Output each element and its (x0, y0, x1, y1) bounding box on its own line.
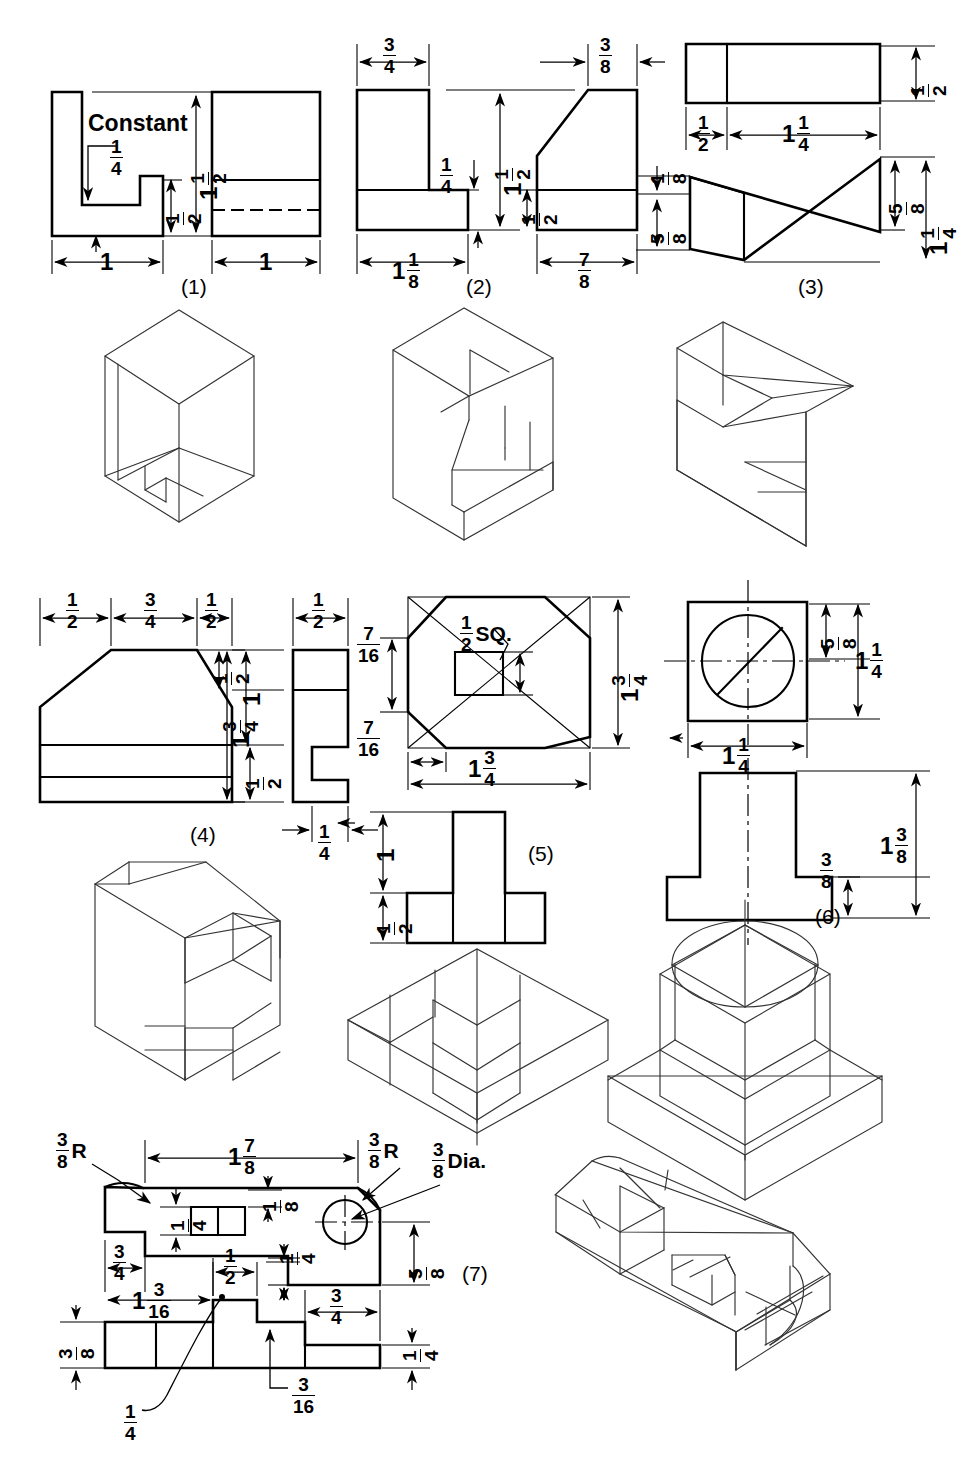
dim-4-one: 1 (240, 691, 264, 706)
dim-7-three-eighths-dia: 38 Dia. (432, 1140, 486, 1181)
caption-1: (1) (181, 275, 207, 299)
dim-6-one-and-quarter-h: 1 14 (722, 735, 750, 776)
dim-1-width-side: 1 (259, 250, 274, 274)
dim-7-quarter-thk: 14 (400, 1349, 441, 1362)
dim-3-half-height: 12 (908, 84, 949, 97)
dim-7-eighth: 18 (260, 1200, 301, 1213)
dim-7-three-quarters-a: 34 (113, 1242, 126, 1283)
dim-2-three-quarters: 34 (383, 35, 396, 76)
caption-3: (3) (798, 275, 824, 299)
caption-2: (2) (466, 275, 492, 299)
dim-6-three-eighths: 38 (820, 850, 833, 891)
dim-3-one-and-quarter-height: 1 14 (918, 227, 959, 255)
problem-4-isometric (95, 862, 280, 1080)
dim-6-five-eighths: 58 (818, 637, 859, 650)
dim-4-half-side: 12 (312, 590, 325, 631)
dim-4-half-b: 12 (205, 590, 218, 631)
dim-5-seven-sixteenths-b: 716 (357, 718, 380, 759)
dim-7-half: 12 (224, 1246, 237, 1287)
problem-6-views (664, 580, 930, 945)
caption-6: (6) (815, 905, 841, 929)
dim-7-quarter-mid: 14 (277, 1252, 318, 1265)
dim-2-three-eighths: 38 (599, 35, 612, 76)
dim-2-one-quarter: 14 (440, 155, 453, 196)
dim-7-three-eighths-r-right: 38 R (368, 1130, 399, 1171)
caption-7: (7) (462, 1262, 488, 1286)
problem-7-isometric (555, 1157, 830, 1370)
dim-1-quarter: 14 (110, 137, 123, 178)
dim-3-half-left: 12 (697, 113, 710, 154)
dim-5-half-sq: 12 SQ. (460, 613, 512, 654)
problem-1-isometric (105, 310, 254, 522)
dim-7-three-quarters-b: 34 (330, 1286, 343, 1327)
dim-2-one-and-eighth: 1 18 (392, 250, 420, 291)
dim-4-three-quarters: 34 (144, 590, 157, 631)
problem-2-views (357, 44, 665, 274)
dim-5-one-three-quarters-h: 1 34 (468, 748, 496, 789)
dim-7-quarter-leader: 14 (124, 1402, 137, 1443)
caption-4: (4) (190, 823, 216, 847)
dim-5-one: 1 (374, 847, 398, 862)
problem-5-isometric (348, 949, 608, 1145)
problem-2-isometric (393, 308, 553, 540)
dim-1-one-and-half: 1 12 (188, 172, 229, 200)
dim-7-one-three-sixteenths: 1 316 (132, 1280, 171, 1321)
dim-4-quarter: 14 (318, 822, 331, 863)
dim-4-half-a: 12 (66, 590, 79, 631)
dim-2-seven-eighths: 78 (578, 250, 591, 291)
dim-7-three-sixteenths: 316 (292, 1375, 315, 1416)
dim-7-quarter-slot: 14 (168, 1219, 209, 1232)
dim-3-one-eighth: 18 (648, 172, 689, 185)
dim-4-one-three-quarters: 1 34 (220, 720, 261, 748)
dim-5-seven-sixteenths-a: 716 (357, 624, 380, 665)
dim-1-half: 12 (163, 212, 204, 225)
problem-3-isometric (677, 322, 853, 546)
caption-5: (5) (528, 842, 554, 866)
dim-2-one-and-half: 1 12 (492, 168, 533, 196)
dim-4-half-bottom: 12 (243, 777, 284, 790)
dim-3-one-and-quarter: 1 14 (782, 113, 810, 154)
dim-4-half-top: 12 (211, 672, 252, 685)
dim-1-width-front: 1 (100, 250, 115, 274)
dim-7-one-seven-eighths: 1 78 (228, 1136, 256, 1177)
dim-7-three-eighths-r-left: 38 R (56, 1130, 87, 1171)
problem-6-isometric (608, 900, 882, 1200)
dim-5-one-three-quarters-v: 1 34 (609, 674, 650, 702)
dim-6-one-three-eighths: 1 38 (880, 825, 908, 866)
dim-7-three-eighths-thk: 38 (56, 1347, 97, 1360)
dim-2-one-half: 12 (519, 213, 560, 226)
note-constant: Constant (88, 112, 188, 135)
problem-4-views (40, 598, 378, 842)
dim-5-half: 12 (374, 922, 415, 935)
dim-3-five-eighths-right: 58 (886, 202, 927, 215)
dim-7-five-eighths: 58 (406, 1267, 447, 1280)
dim-3-five-eighths-left: 58 (648, 232, 689, 245)
dim-6-one-and-quarter-v: 1 14 (855, 640, 883, 681)
